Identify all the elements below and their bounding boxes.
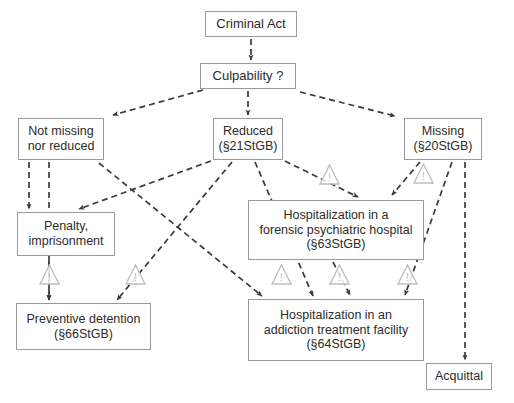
edge-reduced-to-penalty	[79, 161, 211, 209]
edge-reduced-to-forensic-hospital	[285, 161, 358, 197]
node-acquittal[interactable]: Acquittal	[426, 363, 492, 390]
svg-text:!: !	[48, 270, 51, 284]
node-reduced-label: Reduced (§21StGB)	[214, 124, 281, 154]
warning-penalty-preventive-icon: !	[40, 265, 59, 284]
svg-text:!: !	[134, 270, 137, 284]
node-criminal-act-label: Criminal Act	[212, 16, 289, 31]
node-culpability-label: Culpability ?	[209, 68, 288, 83]
node-forensic-hospital-label: Hospitalization in a forensic psychiatri…	[256, 208, 417, 252]
node-penalty-label: Penalty, imprisonment	[24, 219, 107, 249]
node-missing-label: Missing (§20StGB)	[409, 124, 476, 154]
warning-forensic-addiction-icon: !	[330, 265, 349, 284]
edge-not-missing-to-addiction-facility	[99, 163, 262, 296]
svg-text:!: !	[280, 270, 283, 284]
node-not-missing-nor-reduced-label: Not missing nor reduced	[24, 124, 99, 154]
node-forensic-hospital[interactable]: Hospitalization in a forensic psychiatri…	[248, 200, 424, 260]
warning-reduced-preventive-icon: !	[126, 265, 145, 284]
node-not-missing-nor-reduced[interactable]: Not missing nor reduced	[18, 118, 104, 160]
warning-notmissing-addiction-icon: !	[272, 265, 291, 284]
edge-culpability-to-missing	[300, 92, 395, 116]
node-culpability[interactable]: Culpability ?	[200, 63, 296, 89]
node-missing[interactable]: Missing (§20StGB)	[404, 118, 482, 160]
warning-reduced-forensic-icon: !	[320, 165, 339, 184]
node-preventive-detention-label: Preventive detention (§66StGB)	[23, 312, 145, 342]
node-acquittal-label: Acquittal	[431, 369, 487, 384]
svg-text:!: !	[338, 270, 341, 284]
edge-culpability-to-not-missing	[113, 90, 203, 115]
svg-text:!: !	[406, 270, 409, 284]
node-addiction-facility-label: Hospitalization in an addiction treatmen…	[260, 308, 413, 352]
node-criminal-act[interactable]: Criminal Act	[205, 11, 297, 37]
flowchart-canvas: !!!!!!! Criminal ActCulpability ?Not mis…	[0, 0, 514, 403]
svg-text:!: !	[328, 170, 331, 184]
node-addiction-facility[interactable]: Hospitalization in an addiction treatmen…	[248, 299, 424, 361]
node-preventive-detention[interactable]: Preventive detention (§66StGB)	[16, 303, 151, 350]
node-penalty[interactable]: Penalty, imprisonment	[17, 212, 115, 256]
node-reduced[interactable]: Reduced (§21StGB)	[213, 118, 283, 160]
svg-text:!: !	[422, 169, 425, 183]
